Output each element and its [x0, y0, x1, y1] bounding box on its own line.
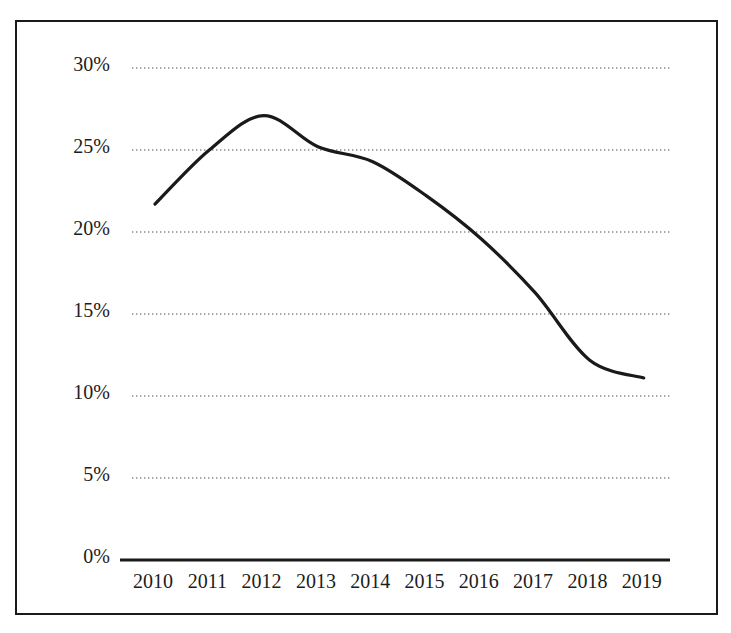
y-axis-label-15pct: 15% — [40, 299, 110, 322]
x-axis-label-2011: 2011 — [177, 570, 237, 593]
y-axis-label-0pct: 0% — [40, 545, 110, 568]
y-axis-label-10pct: 10% — [40, 381, 110, 404]
x-axis-label-2014: 2014 — [340, 570, 400, 593]
x-axis-label-2018: 2018 — [557, 570, 617, 593]
y-axis-label-20pct: 20% — [40, 217, 110, 240]
x-axis-label-2015: 2015 — [395, 570, 455, 593]
figure-root: 0%5%10%15%20%25%30% 20102011201220132014… — [0, 0, 731, 633]
x-axis-label-2019: 2019 — [612, 570, 672, 593]
chart-frame-border — [15, 20, 718, 615]
y-axis-label-30pct: 30% — [40, 53, 110, 76]
x-axis-label-2012: 2012 — [232, 570, 292, 593]
x-axis-label-2016: 2016 — [449, 570, 509, 593]
data-series-line — [155, 116, 644, 378]
x-axis-label-2010: 2010 — [123, 570, 183, 593]
x-axis-label-2017: 2017 — [503, 570, 563, 593]
y-axis-label-5pct: 5% — [40, 463, 110, 486]
line-chart-svg — [17, 22, 720, 617]
y-axis-label-25pct: 25% — [40, 135, 110, 158]
x-axis-label-2013: 2013 — [286, 570, 346, 593]
gridlines-group — [132, 68, 670, 478]
plot-area — [17, 22, 720, 617]
